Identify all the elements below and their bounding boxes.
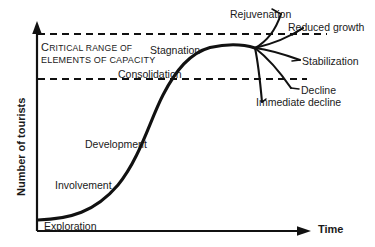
immediate-decline-curve — [255, 48, 262, 102]
y-axis-arrowhead — [32, 21, 42, 34]
critical-range-initial: C — [41, 41, 49, 53]
outcome-label-rejuvenation: Rejuvenation — [230, 9, 291, 20]
y-axis-label: Number of tourists — [16, 98, 27, 196]
talc-diagram: Number of tourists Time CRITICAL RANGE O… — [0, 0, 375, 247]
x-axis-arrowhead — [297, 226, 311, 236]
critical-range-line-1-rest: RITICAL RANGE OF — [49, 43, 132, 53]
critical-range-line-1: CRITICAL RANGE OF — [41, 42, 132, 53]
stabilization-leader-line — [292, 60, 300, 61]
stage-label-stagnation: Stagnation — [150, 45, 200, 56]
outcome-label-immediate-decline: Immediate decline — [256, 97, 341, 108]
diagram-canvas — [0, 0, 375, 247]
decline-leader-line — [291, 88, 299, 89]
stage-label-consolidation: Consolidation — [118, 69, 182, 80]
stage-label-exploration: Exploration — [44, 221, 97, 232]
stage-label-development: Development — [85, 139, 147, 150]
outcome-label-stabilization: Stabilization — [302, 56, 359, 67]
stage-label-involvement: Involvement — [55, 180, 112, 191]
critical-range-line-2: ELEMENTS OF CAPACITY — [41, 56, 155, 65]
outcome-label-decline: Decline — [301, 85, 336, 96]
x-axis-label: Time — [318, 224, 343, 235]
outcome-label-reduced-growth: Reduced growth — [288, 22, 364, 33]
